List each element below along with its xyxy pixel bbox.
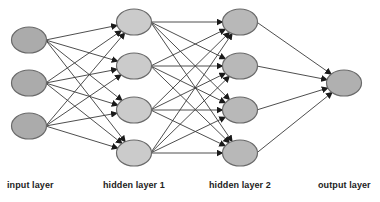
- hidden2-node-2: [223, 53, 258, 79]
- edge-input-3-to-hidden1-3: [46, 113, 117, 126]
- hidden1-node-1: [117, 9, 152, 35]
- input-node-3: [12, 113, 47, 139]
- input-node-2: [12, 70, 47, 96]
- edge-hidden2-1-to-output-1: [257, 22, 332, 74]
- hidden1-node-2: [117, 53, 152, 79]
- input-node-1: [12, 27, 47, 53]
- edge-input-3-to-hidden1-1: [46, 33, 125, 126]
- connection-edges: [46, 22, 333, 153]
- hidden2-node-3: [223, 97, 258, 123]
- hidden2-node-1: [223, 9, 258, 35]
- edge-input-2-to-hidden1-1: [46, 31, 122, 83]
- edge-hidden2-3-to-output-1: [257, 88, 328, 110]
- hidden1-node-4: [117, 140, 152, 166]
- input-layer-label: input layer: [7, 180, 54, 190]
- edge-input-2-to-hidden1-2: [46, 69, 118, 83]
- hidden1-node-3: [117, 97, 152, 123]
- edge-hidden2-2-to-output-1: [257, 66, 328, 80]
- edge-hidden1-3-to-hidden2-1: [151, 32, 230, 110]
- edge-input-2-to-hidden1-4: [46, 83, 122, 144]
- edge-hidden1-1-to-hidden2-2: [151, 22, 226, 59]
- edge-hidden1-4-to-hidden2-3: [151, 117, 226, 153]
- output-layer-label: output layer: [318, 180, 371, 190]
- edge-hidden1-1-to-hidden2-4: [151, 22, 233, 141]
- edge-hidden1-4-to-hidden2-2: [151, 76, 230, 153]
- hidden-layer-2-label: hidden layer 2: [209, 180, 271, 190]
- hidden2-node-4: [223, 140, 258, 166]
- edge-input-1-to-hidden1-1: [46, 25, 118, 40]
- output-node-1: [327, 70, 362, 96]
- edge-hidden1-4-to-hidden2-1: [151, 34, 233, 153]
- edge-input-3-to-hidden1-4: [46, 126, 118, 148]
- neuron-nodes: [12, 9, 362, 166]
- edge-input-3-to-hidden1-2: [46, 75, 122, 126]
- edge-hidden2-4-to-output-1: [257, 93, 333, 154]
- hidden-layer-1-label: hidden layer 1: [103, 180, 165, 190]
- neural-network-diagram: [0, 0, 380, 202]
